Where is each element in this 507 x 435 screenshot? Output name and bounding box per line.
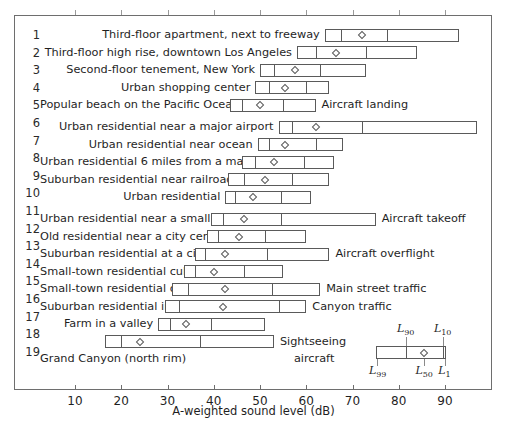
bar-divider-l10 bbox=[272, 283, 273, 296]
bar-outline bbox=[255, 81, 329, 94]
bar-divider-l90 bbox=[195, 265, 196, 278]
legend-label-l10: L10 bbox=[434, 322, 452, 337]
row-number: 3 bbox=[14, 61, 40, 79]
row-label: Third-floor apartment, next to freeway bbox=[40, 26, 320, 44]
bar-outline bbox=[172, 283, 320, 296]
percentile-bar bbox=[105, 335, 274, 348]
row-label: Farm in a valley bbox=[40, 315, 153, 333]
percentile-bar bbox=[207, 230, 306, 243]
bar-divider-l10 bbox=[281, 213, 282, 226]
row-label: Small-town residential on a main street bbox=[40, 280, 167, 298]
row-number: 4 bbox=[14, 79, 40, 97]
bar-divider-l90 bbox=[269, 138, 270, 151]
row-number: 8 bbox=[14, 149, 40, 167]
row-number: 19 bbox=[14, 343, 40, 361]
percentile-bar bbox=[297, 46, 417, 59]
bar-divider-l90 bbox=[188, 283, 189, 296]
bar-divider-l90 bbox=[292, 121, 293, 134]
legend-label-l90: L90 bbox=[397, 322, 415, 337]
row-label: Suburban residential at a city outskirts bbox=[40, 245, 190, 263]
row-label: Third-floor high rise, downtown Los Ange… bbox=[40, 44, 292, 62]
axis-tick bbox=[399, 385, 400, 390]
bar-divider-l10 bbox=[265, 230, 266, 243]
bar-divider-l90 bbox=[205, 248, 206, 261]
legend-divider-l10 bbox=[443, 346, 444, 359]
percentile-bar bbox=[260, 64, 366, 77]
legend-divider-l90 bbox=[406, 346, 407, 359]
axis-tick bbox=[353, 385, 354, 390]
bar-divider-l10 bbox=[244, 265, 245, 278]
bar-outline bbox=[225, 191, 311, 204]
percentile-bar bbox=[165, 300, 306, 313]
bar-divider-l90 bbox=[235, 191, 236, 204]
figure-root: 12345678910111213141516171819Third-floor… bbox=[0, 0, 507, 435]
bar-divider-l10 bbox=[306, 81, 307, 94]
row-label: Urban residential 6 miles from a major a… bbox=[40, 153, 237, 171]
axis-tick bbox=[445, 385, 446, 390]
percentile-bar bbox=[211, 213, 375, 226]
legend-connector-tick bbox=[406, 337, 407, 346]
bar-divider-l90 bbox=[223, 213, 224, 226]
axis-tick bbox=[260, 385, 261, 390]
legend-label-l99: L99 bbox=[369, 364, 387, 379]
legend-connector-tick bbox=[445, 359, 446, 366]
percentile-bar bbox=[325, 29, 459, 42]
row-number: 5 bbox=[14, 96, 40, 114]
legend-connector-tick bbox=[443, 337, 444, 346]
bar-divider-l90 bbox=[121, 335, 122, 348]
bar-outline bbox=[260, 64, 366, 77]
row-number: 7 bbox=[14, 132, 40, 150]
percentile-bar bbox=[158, 318, 264, 331]
row-note-continued: aircraft bbox=[294, 350, 334, 368]
bar-divider-l10 bbox=[320, 64, 321, 77]
axis-tick bbox=[121, 385, 122, 390]
row-note: Canyon traffic bbox=[312, 298, 391, 316]
bar-outline bbox=[279, 121, 478, 134]
row-note: Aircraft overflight bbox=[335, 245, 434, 263]
row-label: Popular beach on the Pacific Ocean bbox=[40, 96, 225, 114]
row-number: 14 bbox=[14, 255, 40, 273]
row-number: 2 bbox=[14, 44, 40, 62]
bar-divider-l90 bbox=[218, 230, 219, 243]
bar-divider-l90 bbox=[255, 156, 256, 169]
percentile-bar bbox=[242, 156, 335, 169]
axis-tick-top bbox=[306, 10, 307, 15]
bar-outline bbox=[258, 138, 344, 151]
bar-divider-l10 bbox=[211, 318, 212, 331]
legend-percentile-bar bbox=[376, 346, 447, 359]
bar-divider-l10 bbox=[316, 138, 317, 151]
bar-divider-l10 bbox=[267, 248, 268, 261]
bar-divider-l10 bbox=[304, 156, 305, 169]
percentile-bar bbox=[279, 121, 478, 134]
row-label: Suburban residential near railroad track… bbox=[40, 171, 223, 189]
row-label: Old residential near a city center bbox=[40, 228, 202, 246]
bar-outline bbox=[207, 230, 306, 243]
legend-label-l1: L1 bbox=[438, 364, 450, 379]
legend-connector-tick bbox=[424, 359, 425, 366]
bar-outline bbox=[105, 335, 274, 348]
row-note: Aircraft landing bbox=[322, 96, 409, 114]
row-label: Urban residential near a major airport bbox=[40, 118, 274, 136]
row-number: 17 bbox=[14, 308, 40, 326]
percentile-bar bbox=[195, 248, 329, 261]
axis-tick-top bbox=[214, 10, 215, 15]
bar-divider-l10 bbox=[200, 335, 201, 348]
percentile-bar bbox=[255, 81, 329, 94]
bar-divider-l10 bbox=[279, 300, 280, 313]
bar-outline bbox=[325, 29, 459, 42]
percentile-bar bbox=[230, 99, 316, 112]
percentile-bar bbox=[258, 138, 344, 151]
row-label: Urban shopping center bbox=[40, 79, 250, 97]
row-label: Small-town residential cul-de-sac bbox=[40, 263, 179, 281]
bar-divider-l10 bbox=[387, 29, 388, 42]
bar-divider-l10 bbox=[292, 173, 293, 186]
row-number: 16 bbox=[14, 290, 40, 308]
axis-tick bbox=[168, 385, 169, 390]
row-number: 1 bbox=[14, 26, 40, 44]
row-number: 13 bbox=[14, 237, 40, 255]
percentile-bar bbox=[184, 265, 283, 278]
bar-outline bbox=[184, 265, 283, 278]
row-label: Suburban residential in a hill canyon bbox=[40, 298, 160, 316]
bar-outline bbox=[195, 248, 329, 261]
row-label: Urban residential near a small airport bbox=[40, 210, 206, 228]
